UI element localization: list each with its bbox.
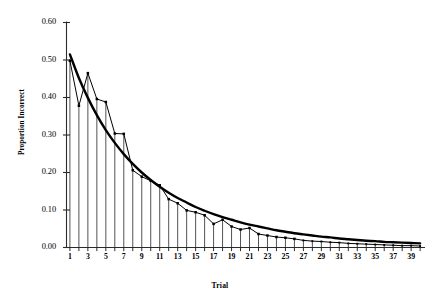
- x-tick-label: 25: [277, 252, 293, 261]
- x-tick-label: 37: [385, 252, 401, 261]
- data-point-marker: [401, 245, 403, 247]
- x-tick-label: 35: [367, 252, 383, 261]
- x-tick-label: 29: [313, 252, 329, 261]
- data-point-marker: [275, 236, 278, 239]
- data-point-marker: [141, 175, 144, 178]
- data-point-marker: [203, 214, 206, 217]
- x-tick-label: 27: [295, 252, 311, 261]
- data-point-marker: [194, 211, 197, 214]
- data-point-marker: [311, 240, 313, 242]
- x-tick-label: 17: [206, 252, 222, 261]
- y-tick-label: 0.50: [22, 55, 56, 64]
- data-point-marker: [257, 233, 260, 236]
- fitted-curve-line: [70, 54, 420, 243]
- x-axis-label: Trial: [183, 281, 257, 290]
- data-point-marker: [87, 72, 90, 75]
- x-tick-label: 39: [403, 252, 419, 261]
- y-tick-label: 0.40: [22, 92, 56, 101]
- data-point-marker: [123, 133, 126, 136]
- y-tick-label: 0.10: [22, 205, 56, 214]
- data-point-marker: [132, 169, 135, 172]
- x-tick-label: 31: [331, 252, 347, 261]
- data-point-marker: [167, 198, 170, 201]
- data-point-marker: [302, 239, 304, 241]
- y-tick-label: 0.20: [22, 167, 56, 176]
- data-point-marker: [410, 245, 412, 247]
- x-tick-label: 1: [62, 252, 78, 261]
- y-axis-label: Proportion Incorrect: [18, 67, 26, 177]
- figure: Proportion Incorrect Trial 0.000.100.200…: [0, 0, 439, 305]
- data-point-marker: [419, 245, 421, 247]
- x-tick-label: 19: [224, 252, 240, 261]
- data-point-marker: [248, 227, 251, 230]
- data-point-marker: [356, 243, 358, 245]
- data-point-marker: [392, 244, 394, 246]
- data-point-marker: [338, 242, 340, 244]
- x-tick-label: 11: [152, 252, 168, 261]
- data-point-marker: [374, 244, 376, 246]
- data-point-marker: [212, 223, 215, 226]
- data-point-marker: [347, 242, 349, 244]
- x-tick-label: 21: [242, 252, 258, 261]
- x-tick-label: 7: [116, 252, 132, 261]
- y-tick-label: 0.00: [22, 242, 56, 251]
- data-point-marker: [221, 219, 224, 222]
- data-point-marker: [96, 98, 99, 101]
- data-point-marker: [105, 101, 108, 104]
- y-tick-label: 0.30: [22, 130, 56, 139]
- data-point-marker: [114, 132, 117, 135]
- x-tick-label: 3: [80, 252, 96, 261]
- data-point-marker: [239, 228, 242, 231]
- data-point-marker: [284, 237, 287, 240]
- data-point-marker: [329, 241, 331, 243]
- data-point-marker: [293, 238, 296, 241]
- x-tick-label: 13: [170, 252, 186, 261]
- data-point-marker: [266, 234, 269, 237]
- data-point-marker: [176, 202, 179, 205]
- data-point-marker: [365, 243, 367, 245]
- x-tick-label: 15: [188, 252, 204, 261]
- x-tick-label: 9: [134, 252, 150, 261]
- data-point-marker: [383, 244, 385, 246]
- x-tick-label: 23: [259, 252, 275, 261]
- x-tick-label: 5: [98, 252, 114, 261]
- data-point-marker: [78, 105, 81, 108]
- data-point-marker: [185, 209, 188, 212]
- data-point-marker: [320, 241, 322, 243]
- y-tick-label: 0.60: [22, 17, 56, 26]
- data-point-marker: [230, 225, 233, 228]
- x-tick-label: 33: [349, 252, 365, 261]
